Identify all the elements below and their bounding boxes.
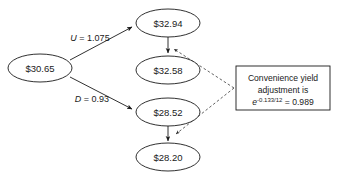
- callout-line-2: adjustment is: [258, 85, 309, 95]
- node-up: $32.94: [136, 9, 200, 37]
- down-branch-equals: =: [81, 94, 91, 104]
- formula-result: = 0.989: [282, 97, 314, 107]
- tree-svg: $30.65 $32.94 $32.58 $28.52 $28.20 U = 1…: [0, 0, 344, 176]
- node-up-adjusted: $32.58: [136, 56, 200, 84]
- node-root-label: $30.65: [25, 63, 54, 74]
- node-down-adjusted: $28.20: [136, 143, 200, 171]
- node-up-adjusted-label: $32.58: [153, 65, 182, 76]
- down-branch-value: 0.93: [92, 94, 110, 104]
- up-branch-label: U = 1.075: [70, 33, 109, 43]
- node-down-adjusted-label: $28.20: [153, 152, 182, 163]
- node-up-label: $32.94: [153, 18, 182, 29]
- up-branch-value: 1.075: [87, 33, 110, 43]
- node-down: $28.52: [136, 98, 200, 126]
- node-root: $30.65: [8, 54, 72, 82]
- down-branch-label: D = 0.93: [75, 94, 109, 104]
- up-branch-equals: =: [77, 33, 87, 43]
- binomial-tree-diagram: $30.65 $32.94 $32.58 $28.52 $28.20 U = 1…: [0, 0, 344, 176]
- convenience-yield-callout: Convenience yield adjustment is e-0.133/…: [236, 66, 330, 110]
- edge-root-to-down: [70, 77, 132, 109]
- node-down-label: $28.52: [153, 107, 182, 118]
- callout-line-1: Convenience yield: [248, 73, 318, 83]
- edge-root-to-up: [70, 27, 132, 60]
- formula-exponent: -0.133/12: [257, 97, 283, 103]
